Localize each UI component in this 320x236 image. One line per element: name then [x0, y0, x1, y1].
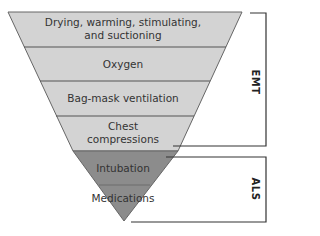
- level-4-line-2: compressions: [87, 133, 159, 145]
- level-6-label: Medications: [92, 192, 155, 205]
- emt-bracket-label: EMT: [250, 69, 261, 94]
- als-bracket-label: ALS: [250, 178, 261, 201]
- level-3-label: Bag-mask ventilation: [67, 92, 178, 105]
- level-4-label: Chest compressions: [87, 120, 159, 146]
- level-1-line-1: Drying, warming, stimulating,: [45, 16, 201, 28]
- level-1-label: Drying, warming, stimulating, and suctio…: [45, 16, 201, 42]
- level-1-line-2: and suctioning: [84, 29, 161, 41]
- level-4-line-1: Chest: [108, 120, 138, 132]
- level-5-label: Intubation: [96, 162, 150, 175]
- level-2-label: Oxygen: [103, 58, 143, 71]
